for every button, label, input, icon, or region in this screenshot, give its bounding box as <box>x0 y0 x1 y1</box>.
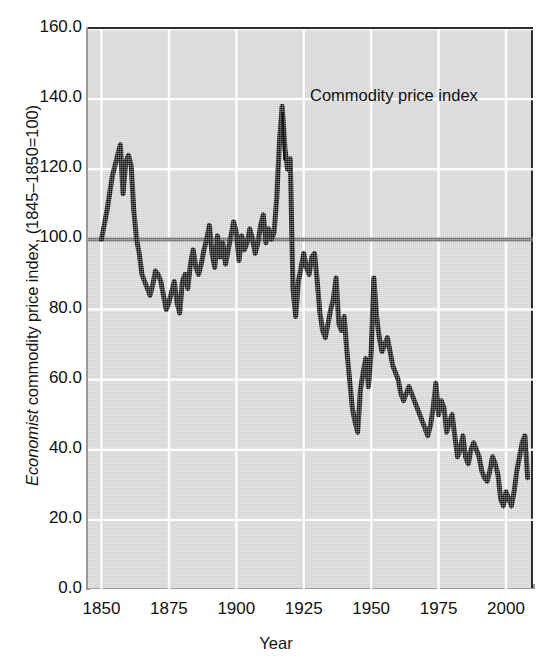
chart-figure: Economist commodity price index, (1845–1… <box>0 0 552 663</box>
x-tick-label: 2000 <box>466 600 546 617</box>
x-axis-label: Year <box>0 634 552 653</box>
x-axis-ticks: 1850187519001925195019752000 <box>0 0 552 663</box>
